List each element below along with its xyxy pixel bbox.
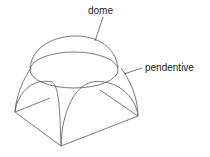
dome-pendentive-drawing [0,0,210,157]
base-back-right-edge [100,90,138,116]
base-front-edge [61,116,138,146]
base-left-edge [15,112,61,146]
right-pendentive-edge [121,68,138,116]
front-arch [61,81,138,146]
left-pendentive-edge [15,68,31,112]
label-pendentive: pendentive [145,63,194,73]
base-back-left-edge [15,98,50,112]
dome-base-ring [30,52,118,88]
label-dome: dome [88,6,113,16]
pendentive-leader [124,68,142,74]
dome-leader [95,17,103,41]
left-arch [15,81,61,146]
